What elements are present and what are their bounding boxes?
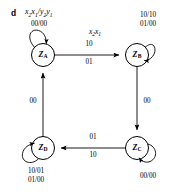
self-loop-label-c: 00/00 — [140, 172, 156, 180]
transition-ab-label-below: 01 — [86, 58, 93, 66]
self-loop-label-a: 00/00 — [31, 20, 47, 28]
self-loop-label-d-line2: 01/00 — [28, 176, 44, 184]
state-label-a: ZA — [38, 50, 47, 59]
self-loop-label-d-line1: 10/01 — [28, 167, 44, 175]
ab-header-sub1: 1 — [98, 31, 101, 37]
transition-bc-label: 00 — [144, 97, 151, 105]
state-transition-diagram: d x2x1/y2y1 ZA ZB ZC ZD 00/00 10/10 01/0… — [0, 0, 173, 196]
legend-sub-y1: 1 — [50, 12, 53, 18]
state-label-d-sub: D — [44, 147, 48, 153]
transition-cd-label-below: 10 — [90, 151, 97, 159]
state-label-b: ZB — [133, 50, 142, 59]
transition-ab-label-above: 10 — [86, 40, 93, 48]
state-label-b-sub: B — [138, 54, 142, 60]
transition-da-label: 00 — [30, 97, 37, 105]
state-label-c: ZC — [132, 143, 141, 152]
transition-ab-header: x2x1 — [89, 27, 101, 37]
io-legend: x2x1/y2y1 — [25, 7, 53, 18]
state-label-d: ZD — [38, 143, 47, 152]
state-label-c-sub: C — [138, 147, 142, 153]
transition-cd-label-above: 01 — [90, 133, 97, 141]
self-loop-label-b-line1: 10/10 — [140, 11, 156, 19]
self-loop-label-b-line2: 01/00 — [140, 20, 156, 28]
state-label-a-sub: A — [44, 54, 48, 60]
panel-letter: d — [11, 8, 16, 18]
